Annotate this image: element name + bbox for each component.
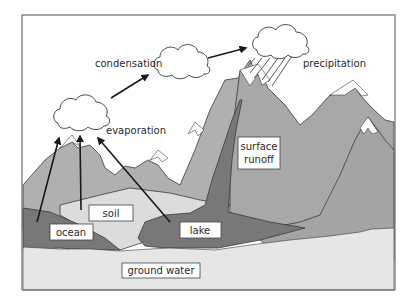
svg-text:surface: surface [241, 141, 278, 152]
label-box-lake: lake [180, 222, 221, 238]
label-condensation: condensation [95, 58, 162, 69]
water-cycle-diagram: condensation precipitation evaporation s… [0, 0, 407, 301]
svg-text:runoff: runoff [244, 154, 275, 165]
label-box-surface-runoff: surface runoff [238, 137, 280, 169]
evaporation-arrow-soil [80, 136, 81, 210]
svg-text:ocean: ocean [56, 227, 86, 238]
label-box-ocean: ocean [50, 224, 93, 240]
svg-text:lake: lake [190, 225, 211, 236]
label-box-ground-water: ground water [122, 263, 200, 278]
svg-text:soil: soil [103, 208, 120, 219]
label-precipitation: precipitation [303, 58, 366, 69]
svg-text:ground water: ground water [127, 265, 195, 276]
label-evaporation: evaporation [106, 125, 166, 136]
label-box-soil: soil [89, 205, 133, 221]
